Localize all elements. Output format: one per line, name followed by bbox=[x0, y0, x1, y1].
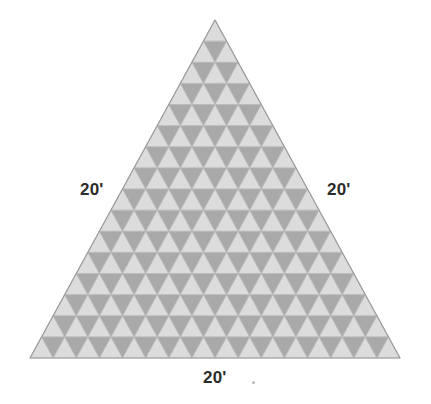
side-label-left: 20' bbox=[80, 181, 104, 198]
figure-root: 20' 20' 20' bbox=[0, 0, 431, 404]
triangle-tile bbox=[203, 20, 226, 41]
side-label-right: 20' bbox=[327, 181, 351, 198]
side-label-bottom: 20' bbox=[203, 369, 227, 386]
subdivided-triangle-graphic bbox=[0, 0, 431, 404]
stray-speck-artifact bbox=[252, 381, 255, 384]
